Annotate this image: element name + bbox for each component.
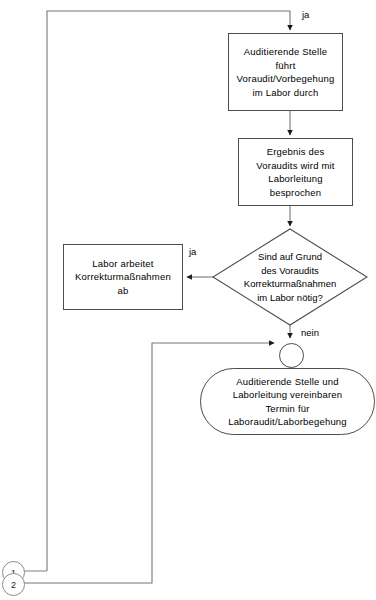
connector-2-label: 2 — [11, 580, 16, 590]
node-termin-label: Auditierende Stelle und Laborleitung ver… — [228, 375, 347, 429]
connector-2: 2 — [2, 573, 25, 596]
edge-label-decision-nein: nein — [301, 327, 319, 338]
flowchart-canvas: Auditierende Stelle führt Voraudit/Vorbe… — [0, 0, 376, 600]
edge-label-top-ja: ja — [302, 9, 309, 20]
node-voraudit: Auditierende Stelle führt Voraudit/Vorbe… — [228, 33, 343, 111]
node-voraudit-label: Auditierende Stelle führt Voraudit/Vorbe… — [237, 45, 335, 99]
node-korrektur: Labor arbeitet Korrekturmaßnahmen ab — [63, 244, 183, 310]
node-ergebnis-label: Ergebnis des Voraudits wird mit Laborlei… — [256, 145, 334, 199]
node-entscheidung-label: Sind auf Grund des Voraudits Korrekturma… — [212, 228, 368, 326]
node-korrektur-label: Labor arbeitet Korrekturmaßnahmen ab — [75, 257, 171, 298]
node-termin: Auditierende Stelle und Laborleitung ver… — [200, 368, 375, 435]
node-entscheidung: Sind auf Grund des Voraudits Korrekturma… — [212, 228, 368, 326]
edge-label-decision-ja: ja — [189, 246, 196, 257]
node-ergebnis: Ergebnis des Voraudits wird mit Laborlei… — [238, 138, 353, 206]
node-junction — [279, 343, 304, 368]
